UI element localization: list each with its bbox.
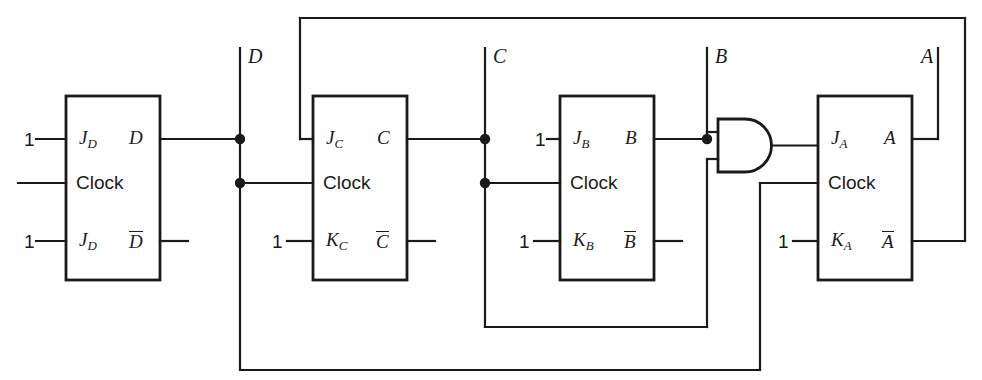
ff-c-j-label: JC (326, 128, 343, 147)
const-input-jb: 1 (535, 130, 546, 149)
ff-c-qbar-label: C (376, 231, 389, 251)
ff-c-k-label: KC (326, 230, 347, 249)
ff-b-j-subscript: B (581, 136, 589, 151)
ff-d-j-label: JD (79, 128, 97, 147)
ff-c-j-subscript: C (334, 136, 343, 151)
ff-b-qbar-label: B (624, 231, 636, 251)
junction-d-q (235, 134, 245, 144)
junction-d-clock (235, 178, 245, 188)
ff-b-qbar-overline: B (624, 231, 636, 251)
ff-d-k-label: JD (79, 230, 97, 249)
net-label-a: A (921, 46, 933, 66)
ff-c-k-subscript: C (339, 238, 348, 253)
const-input-kb: 1 (519, 232, 530, 251)
net-label-c: C (493, 46, 506, 66)
ff-a-k-subscript: A (844, 238, 852, 253)
ff-c-clock-label: Clock (323, 173, 371, 192)
ff-d-j-subscript: D (87, 136, 96, 151)
ff-d-qbar-label: D (129, 231, 143, 251)
const-input-ka: 1 (778, 232, 789, 251)
net-label-d: D (248, 46, 262, 66)
ff-a-j-subscript: A (839, 136, 847, 151)
ff-c-qbar-overline: C (376, 231, 389, 251)
ff-a-q-label: A (884, 128, 896, 147)
ff-b-clock-label: Clock (570, 173, 618, 192)
const-input-kd: 1 (24, 232, 35, 251)
ff-d-q-label: D (129, 128, 143, 147)
and-gate-body (718, 119, 772, 172)
junction-c-clock (480, 178, 490, 188)
circuit-diagram: JD Clock JD D D JC Clock KC C C JB Clock… (0, 0, 982, 380)
ff-d-clock-label: Clock (76, 173, 124, 192)
ff-c-q-label: C (377, 128, 390, 147)
ff-a-qbar-label: A (882, 231, 894, 251)
ff-a-k-label: KA (831, 230, 852, 249)
ff-d-qbar-overline: D (129, 231, 143, 251)
junction-c-q (480, 134, 490, 144)
ff-a-clock-label: Clock (828, 173, 876, 192)
ff-b-k-label: KB (573, 230, 594, 249)
ff-b-k-subscript: B (586, 238, 594, 253)
ff-b-q-label: B (625, 128, 637, 147)
const-input-jd: 1 (24, 130, 35, 149)
ff-a-j-label: JA (831, 128, 847, 147)
ff-b-j-label: JB (573, 128, 589, 147)
net-label-b: B (715, 46, 727, 66)
const-input-kc: 1 (272, 232, 283, 251)
ff-a-qbar-overline: A (882, 231, 894, 251)
ff-d-k-subscript: D (87, 238, 96, 253)
